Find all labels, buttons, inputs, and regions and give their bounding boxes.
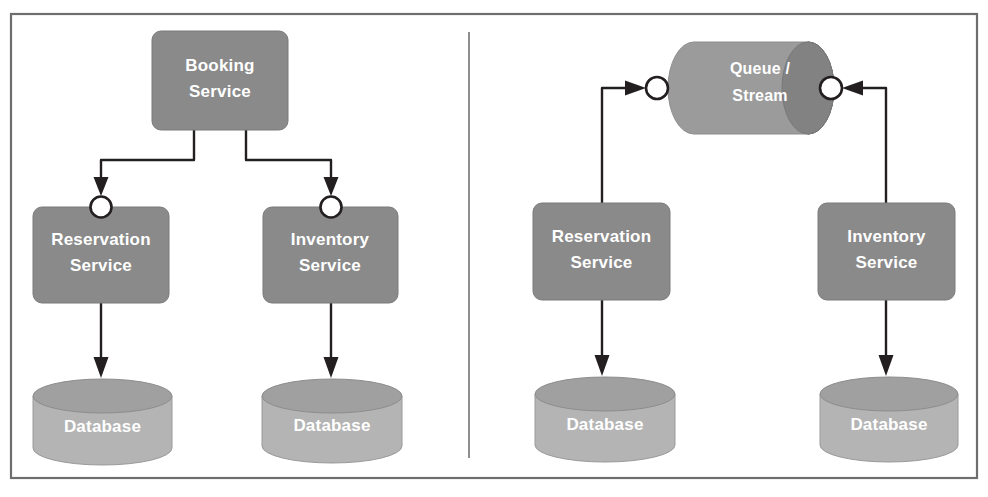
node-reservation-service-label-line1: Reservation	[51, 230, 151, 249]
service-box-shape	[152, 31, 288, 130]
node-reservation-service-label-line2: Service	[70, 256, 132, 275]
node-reservation-service[interactable]: Reservation Service	[533, 203, 670, 300]
edge-booking-to-reservation	[101, 130, 194, 182]
node-reservation-database-label: Database	[566, 415, 643, 434]
arrowhead-icon	[842, 81, 863, 96]
node-inventory-database-label: Database	[850, 415, 927, 434]
node-booking-service[interactable]: Booking Service	[152, 31, 288, 130]
node-inventory-service-label-line2: Service	[856, 253, 918, 272]
node-inventory-database[interactable]: Database	[820, 377, 958, 462]
arrowhead-icon	[324, 177, 339, 196]
panel-asynchronous-messaging: Queue / Stream Reservation Service Inven…	[533, 42, 958, 462]
arrowhead-icon	[625, 81, 646, 96]
node-booking-service-label-line2: Service	[189, 82, 251, 101]
edge-inventory-to-queue	[860, 88, 886, 203]
cylinder-top-ellipse	[820, 377, 958, 411]
arrowhead-icon	[94, 177, 109, 196]
cylinder-top-ellipse	[262, 379, 402, 413]
architecture-diagram: Booking Service Reservation Service Inve…	[0, 0, 988, 497]
arrowhead-icon	[595, 355, 610, 376]
cylinder-top-ellipse	[33, 379, 172, 413]
diagram-canvas: Booking Service Reservation Service Inve…	[0, 0, 988, 497]
node-inventory-service-label-line2: Service	[299, 256, 361, 275]
node-reservation-service-label-line1: Reservation	[552, 227, 652, 246]
node-queue-stream-label-line2: Stream	[732, 87, 787, 104]
node-inventory-database[interactable]: Database	[262, 379, 402, 463]
node-booking-service-label-line1: Booking	[185, 56, 254, 75]
node-inventory-service[interactable]: Inventory Service	[263, 207, 398, 303]
node-reservation-service[interactable]: Reservation Service	[33, 207, 169, 303]
panel-synchronous-orchestration: Booking Service Reservation Service Inve…	[33, 31, 402, 465]
service-box-shape	[818, 203, 955, 300]
node-inventory-service[interactable]: Inventory Service	[818, 203, 955, 300]
service-box-shape	[33, 207, 169, 303]
node-queue-stream-label-line1: Queue /	[730, 60, 790, 77]
node-reservation-database[interactable]: Database	[33, 379, 172, 465]
node-inventory-database-label: Database	[293, 416, 370, 435]
node-inventory-service-label-line1: Inventory	[291, 230, 370, 249]
edge-reservation-to-queue	[602, 88, 628, 203]
interface-port-circle-icon	[820, 77, 842, 99]
cylinder-top-ellipse	[535, 377, 675, 411]
node-reservation-service-label-line2: Service	[571, 253, 633, 272]
interface-port-circle-icon	[321, 197, 342, 218]
service-box-shape	[533, 203, 670, 300]
node-inventory-service-label-line1: Inventory	[847, 227, 926, 246]
node-reservation-database-label: Database	[64, 417, 141, 436]
edge-booking-to-inventory	[246, 130, 331, 182]
interface-port-circle-icon	[646, 77, 668, 99]
service-box-shape	[263, 207, 398, 303]
interface-port-circle-icon	[91, 197, 112, 218]
arrowhead-icon	[94, 357, 109, 378]
node-queue-stream[interactable]: Queue / Stream	[668, 42, 834, 134]
node-reservation-database[interactable]: Database	[535, 377, 675, 462]
arrowhead-icon	[879, 355, 894, 376]
arrowhead-icon	[324, 357, 339, 378]
